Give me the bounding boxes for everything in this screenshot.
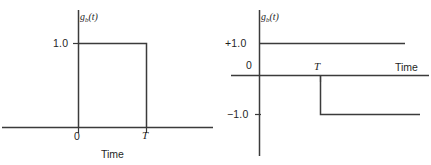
split-phase-plot-svg xyxy=(215,0,431,165)
signal-label-gb-t: gb(t) xyxy=(261,12,279,24)
pulse-waveform xyxy=(79,44,147,128)
signal-label-argument: (t) xyxy=(270,11,279,22)
negative-level-waveform xyxy=(321,76,421,115)
signal-waveform-figure: gb(t) 1.0 0 T Time gb(t) +1.0 0 −1.0 T T… xyxy=(0,0,431,165)
x-tick-label-T: T xyxy=(314,61,320,72)
y-tick-label-1.0: 1.0 xyxy=(53,38,68,49)
x-axis-caption: Time xyxy=(101,149,124,160)
x-axis-caption: Time xyxy=(395,62,418,73)
chart-panel-unipolar-nrz: gb(t) 1.0 0 T Time xyxy=(0,0,215,165)
x-tick-label-0: 0 xyxy=(74,131,80,142)
x-tick-label-T: T xyxy=(142,130,148,141)
signal-label-gb-t: gb(t) xyxy=(80,12,98,24)
y-tick-label-minus-1.0: −1.0 xyxy=(227,109,249,120)
signal-label-argument: (t) xyxy=(89,11,98,22)
chart-panel-split-phase: gb(t) +1.0 0 −1.0 T Time xyxy=(215,0,431,165)
unipolar-nrz-plot-svg xyxy=(0,0,215,165)
y-tick-label-0: 0 xyxy=(246,60,252,71)
y-tick-label-plus-1.0: +1.0 xyxy=(225,38,247,49)
